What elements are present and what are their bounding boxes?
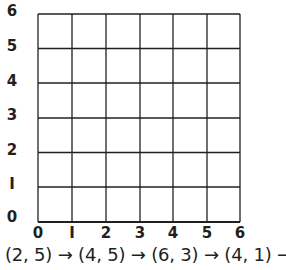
- x-label-6: 6: [232, 225, 248, 241]
- y-label-5: 5: [5, 38, 19, 54]
- x-label-1: I: [64, 225, 80, 241]
- x-label-5: 5: [199, 225, 215, 241]
- coordinate-grid: [0, 0, 286, 230]
- x-label-3: 3: [132, 225, 148, 241]
- y-label-2: 2: [5, 142, 19, 158]
- y-label-4: 4: [5, 73, 19, 89]
- y-label-1: I: [5, 176, 19, 192]
- x-label-2: 2: [98, 225, 114, 241]
- y-label-3: 3: [5, 107, 19, 123]
- y-label-0: 0: [5, 209, 19, 225]
- y-label-6: 6: [5, 3, 19, 19]
- coordinate-path-text: (2, 5) → (4, 5) → (6, 3) → (4, 1) →: [5, 244, 286, 266]
- x-label-4: 4: [165, 225, 181, 241]
- x-label-0: 0: [30, 225, 46, 241]
